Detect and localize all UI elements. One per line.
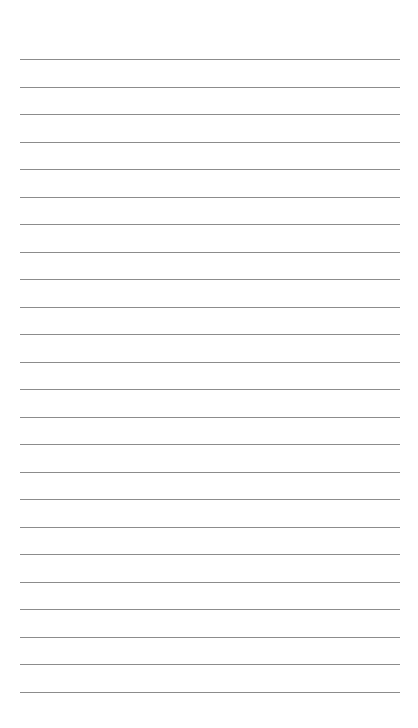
ruled-line: [20, 307, 400, 308]
ruled-line: [20, 472, 400, 473]
ruled-line: [20, 637, 400, 638]
ruled-line: [20, 197, 400, 198]
ruled-line: [20, 169, 400, 170]
ruled-line: [20, 527, 400, 528]
ruled-line: [20, 389, 400, 390]
ruled-line: [20, 417, 400, 418]
ruled-line: [20, 142, 400, 143]
ruled-line: [20, 609, 400, 610]
ruled-line: [20, 444, 400, 445]
ruled-line: [20, 279, 400, 280]
ruled-line: [20, 87, 400, 88]
ruled-line: [20, 499, 400, 500]
ruled-line: [20, 664, 400, 665]
lined-page: [0, 0, 418, 728]
ruled-line: [20, 59, 400, 60]
ruled-line: [20, 334, 400, 335]
ruled-line: [20, 224, 400, 225]
ruled-line: [20, 692, 400, 693]
ruled-line: [20, 252, 400, 253]
ruled-line: [20, 114, 400, 115]
ruled-line: [20, 582, 400, 583]
ruled-line: [20, 362, 400, 363]
ruled-line: [20, 554, 400, 555]
